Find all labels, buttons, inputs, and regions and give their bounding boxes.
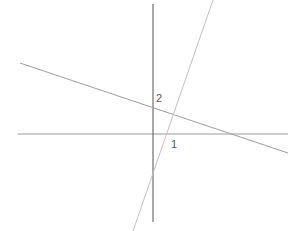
y-intercept-label: 2 xyxy=(156,93,162,104)
x-intercept-label: 1 xyxy=(171,139,177,150)
coordinate-plane xyxy=(0,0,305,231)
ascending-line xyxy=(133,0,213,231)
graph-figure: 2 1 xyxy=(0,0,305,231)
descending-line xyxy=(20,63,288,153)
